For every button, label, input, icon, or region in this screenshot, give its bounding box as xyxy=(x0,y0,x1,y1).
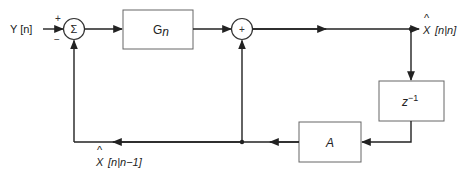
svg-text:X: X xyxy=(422,24,431,36)
adder-junction: + xyxy=(232,19,253,40)
summing-junction: Σ xyxy=(64,19,85,40)
svg-text:[n|n]: [n|n] xyxy=(434,24,457,36)
delay-to-a-arrow xyxy=(362,121,411,142)
sigma-symbol: Σ xyxy=(71,23,78,35)
delay-block: z−1 xyxy=(379,81,444,121)
svg-text:X: X xyxy=(95,156,104,168)
svg-text:[n|n−1]: [n|n−1] xyxy=(107,156,143,168)
svg-text:^: ^ xyxy=(97,144,103,156)
kalman-filter-block-diagram: Y [n] + − Σ Gn + ^ X [n|n] z−1 xyxy=(0,0,471,176)
transition-block: A xyxy=(299,122,361,162)
gain-block: Gn xyxy=(123,10,193,49)
prediction-label: ^ X [n|n−1] xyxy=(95,144,143,168)
adder-plus-symbol: + xyxy=(239,24,245,35)
input-label: Y [n] xyxy=(10,23,32,35)
transition-label: A xyxy=(325,136,334,150)
plus-sign: + xyxy=(55,13,61,24)
output-label: ^ X [n|n] xyxy=(422,12,457,36)
gain-label: Gn xyxy=(153,23,169,39)
svg-text:^: ^ xyxy=(424,12,430,24)
minus-sign: − xyxy=(54,34,60,45)
